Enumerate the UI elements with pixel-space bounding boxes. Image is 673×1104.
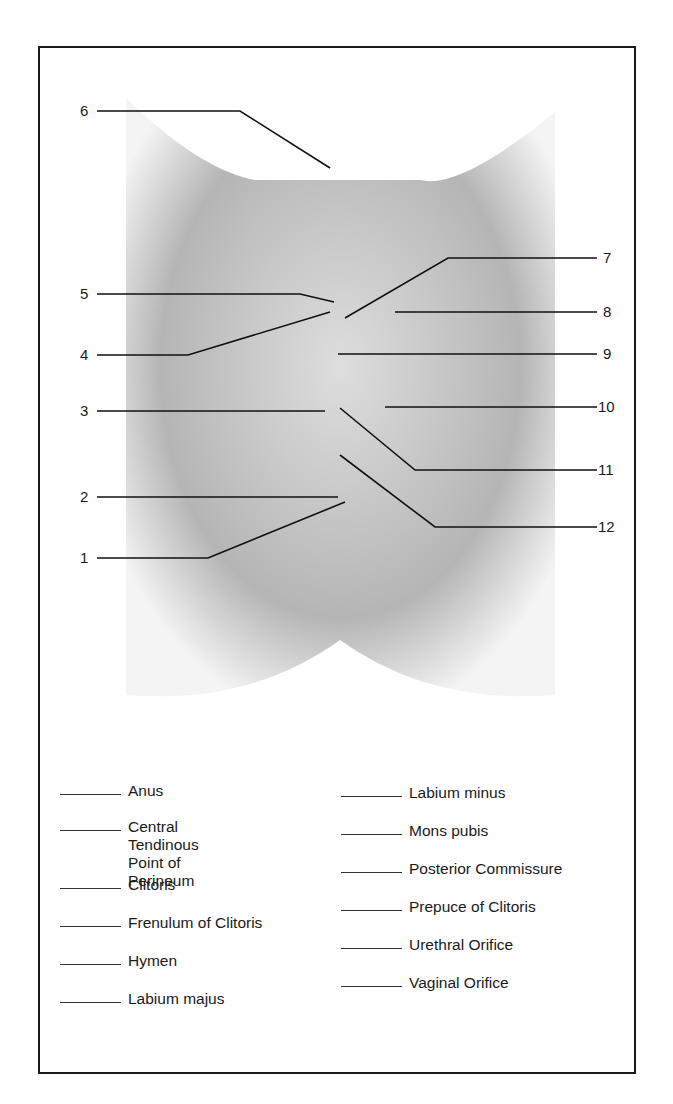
callout-12: 12 xyxy=(598,519,615,534)
callout-2: 2 xyxy=(80,489,88,504)
answer-blank[interactable] xyxy=(60,830,121,831)
answer-blank[interactable] xyxy=(60,794,121,795)
answer-blank[interactable] xyxy=(60,926,121,927)
anatomical-illustration xyxy=(0,0,673,720)
answer-blank[interactable] xyxy=(341,796,402,797)
callout-6: 6 xyxy=(80,103,88,118)
callout-3: 3 xyxy=(80,403,88,418)
callout-5: 5 xyxy=(80,286,88,301)
answer-blank[interactable] xyxy=(341,910,402,911)
answer-blank[interactable] xyxy=(341,872,402,873)
callout-4: 4 xyxy=(80,347,88,362)
callout-1: 1 xyxy=(80,550,88,565)
callout-10: 10 xyxy=(598,399,615,414)
answer-blank[interactable] xyxy=(60,888,121,889)
answer-blank[interactable] xyxy=(60,964,121,965)
answer-blank[interactable] xyxy=(341,986,402,987)
answer-blank[interactable] xyxy=(341,834,402,835)
answer-blank[interactable] xyxy=(341,948,402,949)
callout-7: 7 xyxy=(603,250,611,265)
answer-blank[interactable] xyxy=(60,1002,121,1003)
callout-8: 8 xyxy=(603,304,611,319)
callout-9: 9 xyxy=(603,346,611,361)
callout-11: 11 xyxy=(598,462,614,477)
